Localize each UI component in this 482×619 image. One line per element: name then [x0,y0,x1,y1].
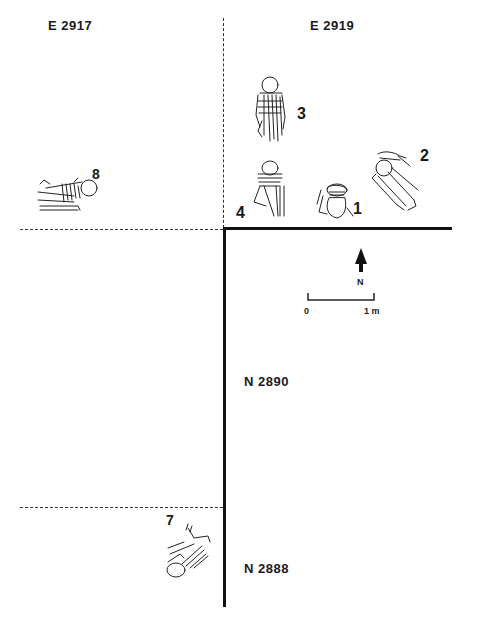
burial-label-4: 4 [236,204,245,222]
skeleton-4-drawing [252,158,292,218]
burial-label-2: 2 [420,147,429,165]
north-arrow-icon [354,248,368,272]
skeleton-8-drawing [34,176,100,216]
grid-label-n2890: N 2890 [244,374,289,389]
scale-bar-end-label: 1 m [364,306,380,316]
grid-label-e2917: E 2917 [48,18,92,33]
skeleton-1-drawing [315,180,355,222]
skeleton-2-drawing [370,150,420,215]
grid-line-e2919-dashed [223,18,224,228]
burial-label-3: 3 [297,105,306,123]
scale-bar [307,292,375,302]
excavation-edge-west [223,227,226,607]
grid-line-n2890-dashed-west [20,229,223,230]
skeleton-3-drawing [252,75,292,145]
north-arrow-label: N [357,277,364,287]
scale-bar-start-label: 0 [304,306,309,316]
grid-label-e2919: E 2919 [310,18,354,33]
excavation-edge-north [223,227,452,230]
grid-line-n2888-dashed-west [20,507,223,508]
skeleton-7-drawing [164,524,214,580]
grid-label-n2888: N 2888 [244,561,289,576]
